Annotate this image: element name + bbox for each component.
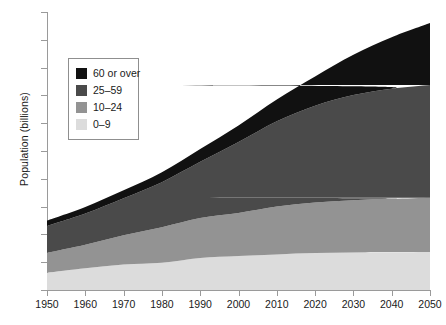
x-tick-label: 1960 xyxy=(65,298,105,310)
x-tick-label: 1990 xyxy=(180,298,220,310)
legend-swatch-icon xyxy=(76,68,87,79)
x-tick xyxy=(353,291,354,296)
x-tick-label: 2000 xyxy=(219,298,259,310)
legend-label: 10–24 xyxy=(93,102,122,113)
x-tick xyxy=(430,291,431,296)
x-tick xyxy=(162,291,163,296)
x-tick xyxy=(277,291,278,296)
legend-item: 10–24 xyxy=(76,99,132,116)
x-tick-label: 2050 xyxy=(410,298,446,310)
y-axis-title: Population (billions) xyxy=(18,59,30,219)
chart-legend: 60 or over25–5910–240–9 xyxy=(68,58,139,140)
stacked-areas xyxy=(47,12,430,290)
legend-swatch-icon xyxy=(76,119,87,130)
x-tick-label: 2030 xyxy=(333,298,373,310)
x-tick xyxy=(47,291,48,296)
x-tick xyxy=(124,291,125,296)
population-area-chart: Population (billions) 012345678910 19501… xyxy=(0,0,446,325)
x-tick xyxy=(239,291,240,296)
legend-item: 60 or over xyxy=(76,65,132,82)
legend-item: 0–9 xyxy=(76,116,132,133)
x-tick xyxy=(200,291,201,296)
x-tick xyxy=(392,291,393,296)
x-tick xyxy=(85,291,86,296)
legend-swatch-icon xyxy=(76,102,87,113)
legend-swatch-icon xyxy=(76,85,87,96)
x-tick-label: 2010 xyxy=(257,298,297,310)
legend-label: 0–9 xyxy=(93,119,111,130)
x-tick-label: 2020 xyxy=(295,298,335,310)
legend-label: 60 or over xyxy=(93,68,140,79)
x-tick-label: 1970 xyxy=(104,298,144,310)
x-tick-label: 1980 xyxy=(142,298,182,310)
x-tick xyxy=(315,291,316,296)
x-tick-label: 1950 xyxy=(27,298,67,310)
legend-item: 25–59 xyxy=(76,82,132,99)
x-tick-label: 2040 xyxy=(372,298,412,310)
legend-label: 25–59 xyxy=(93,85,122,96)
